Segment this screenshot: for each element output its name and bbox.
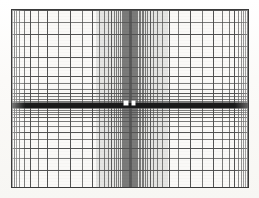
- gridline-horizontal: [11, 132, 249, 133]
- gridline-horizontal: [11, 76, 249, 77]
- gridline-horizontal: [11, 110, 249, 111]
- gridline-horizontal: [11, 34, 249, 35]
- gridline-horizontal: [11, 67, 249, 68]
- gridline-horizontal: [11, 121, 249, 122]
- figure-root: [0, 0, 259, 198]
- gridline-horizontal: [11, 89, 249, 90]
- gridline-horizontal: [11, 117, 249, 118]
- gridline-horizontal: [11, 139, 249, 140]
- gridline-horizontal: [11, 158, 249, 159]
- gridline-horizontal: [11, 170, 249, 171]
- gridline-horizontal: [11, 83, 249, 84]
- gridline-horizontal: [11, 10, 249, 11]
- gridline-horizontal: [11, 112, 249, 113]
- data-marker: [124, 101, 128, 105]
- gridline-horizontal: [11, 57, 249, 58]
- gridline-horizontal: [11, 187, 249, 188]
- plot-area: [11, 9, 249, 188]
- gridline-horizontal: [11, 114, 249, 115]
- data-marker: [132, 101, 135, 105]
- gridline-horizontal: [11, 96, 249, 97]
- gridline-horizontal: [11, 99, 249, 100]
- axis-line-horizontal: [11, 103, 249, 108]
- gridline-horizontal: [11, 93, 249, 94]
- gridline-horizontal: [11, 126, 249, 127]
- gridline-horizontal: [11, 22, 249, 23]
- gridline-horizontal: [11, 148, 249, 149]
- gridline-horizontal: [11, 46, 249, 47]
